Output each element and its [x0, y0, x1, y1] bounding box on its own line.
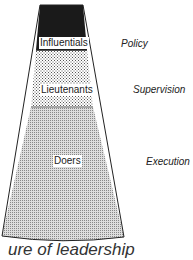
role-supervision: Supervision: [133, 84, 185, 95]
diagram-caption: ure of leadership: [8, 240, 135, 260]
tier-label-influentials: Influentials: [39, 37, 89, 49]
role-policy: Policy: [121, 38, 148, 49]
tier-label-doers: Doers: [53, 155, 82, 167]
role-execution: Execution: [146, 156, 190, 167]
tier-lieutenants: [31, 50, 93, 107]
tier-label-lieutenants: Lieutenants: [40, 84, 94, 96]
